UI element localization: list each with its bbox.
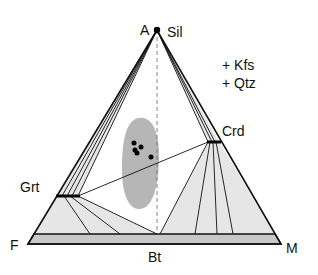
vertex-label-m: M — [286, 240, 298, 256]
phase-label-crd: Crd — [222, 123, 245, 139]
composition-field — [122, 118, 159, 209]
phase-label-sil: Sil — [167, 24, 183, 40]
extra-phase-kfs: + Kfs — [222, 57, 254, 73]
sample-point — [139, 145, 144, 150]
sil-crd-tielines — [157, 30, 215, 142]
biotite-band — [28, 234, 281, 244]
sample-point — [132, 141, 137, 146]
sample-point — [149, 155, 154, 160]
sample-point — [135, 151, 140, 156]
phase-label-bt: Bt — [148, 249, 161, 265]
sillimanite-point — [154, 27, 160, 33]
extra-phase-qtz: + Qtz — [222, 75, 256, 91]
vertex-label-f: F — [10, 237, 19, 253]
ternary-diagram: A Sil + Kfs + Qtz Crd Grt F M Bt — [0, 0, 318, 275]
vertex-label-a: A — [140, 22, 150, 38]
phase-label-grt: Grt — [20, 179, 40, 195]
crd-bt-field — [160, 142, 275, 234]
